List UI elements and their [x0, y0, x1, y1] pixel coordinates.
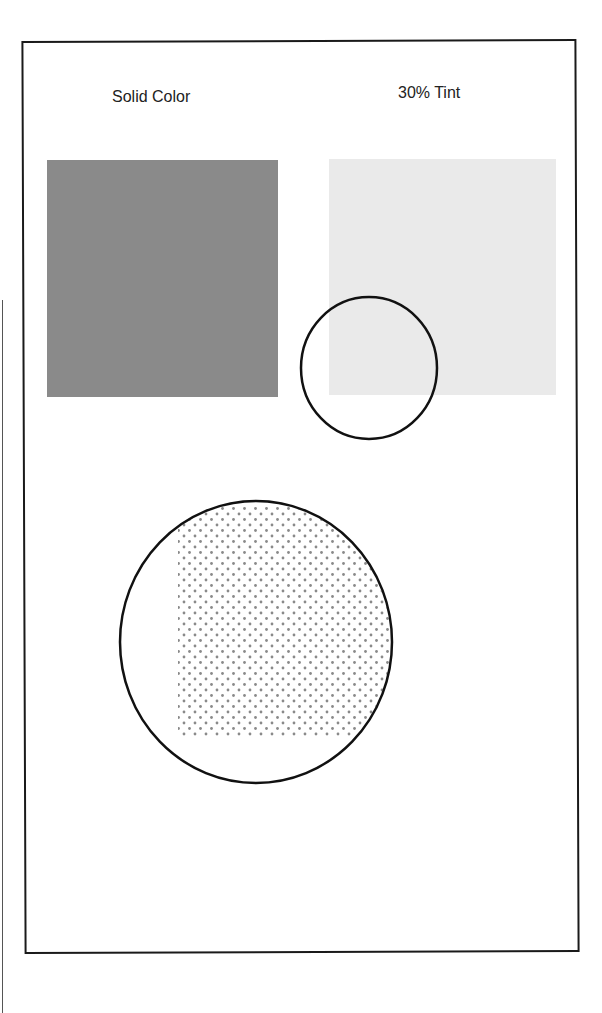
- dot-pattern-region: [178, 505, 390, 737]
- small-circle: [301, 297, 437, 439]
- shapes-layer: [0, 0, 602, 1013]
